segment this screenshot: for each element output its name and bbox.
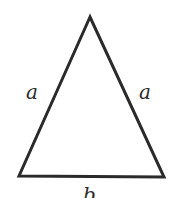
triangle-diagram: a a b: [0, 0, 172, 198]
right-side-label: a: [139, 80, 151, 104]
left-side-label: a: [26, 80, 38, 104]
base-label: b: [83, 183, 96, 198]
